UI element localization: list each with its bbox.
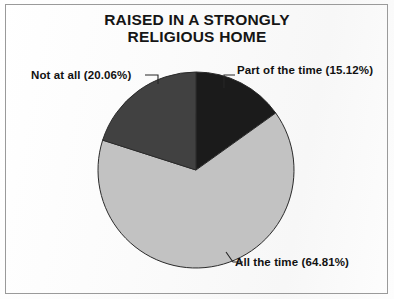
pie-slice-group <box>98 72 294 268</box>
slice-label-not-at-all: Not at all (20.06%) <box>31 69 131 81</box>
pie-chart <box>0 0 394 299</box>
chart-figure: RAISED IN A STRONGLY RELIGIOUS HOME Not … <box>0 0 394 299</box>
slice-label-all-the-time: All the time (64.81%) <box>235 256 349 268</box>
slice-label-part-of-the-time: Part of the time (15.12%) <box>237 64 373 76</box>
